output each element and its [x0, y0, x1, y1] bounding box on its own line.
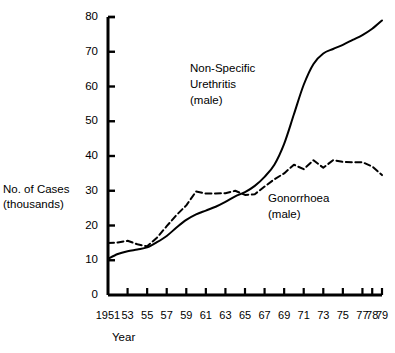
series-line-non-specific-urethritis	[108, 20, 382, 258]
y-axis-tick-label: 80	[72, 10, 98, 23]
series-label-gonorrhoea: Gonorrhoea(male)	[268, 190, 329, 222]
nsu-label-line3: (male)	[190, 94, 223, 106]
y-axis-tick-label: 50	[72, 114, 98, 127]
chart-container: 01020304050607080 1951535557596163656769…	[0, 0, 395, 353]
y-axis-tick-label: 40	[72, 149, 98, 162]
nsu-label-line1: Non-Specific	[190, 62, 255, 74]
chart-plot-area	[0, 0, 395, 353]
y-axis-tick-label: 70	[72, 45, 98, 58]
x-axis-tick-label: 79	[367, 309, 395, 322]
y-axis-tick-label: 30	[72, 184, 98, 197]
chart-axes	[108, 17, 382, 295]
y-axis-label-line1: No. of Cases	[3, 183, 69, 195]
gonorrhoea-label-line2: (male)	[268, 208, 301, 220]
y-axis-tick-label: 10	[72, 253, 98, 266]
y-axis-tick-label: 0	[72, 288, 98, 301]
gonorrhoea-label-line1: Gonorrhoea	[268, 192, 329, 204]
y-axis-label: No. of Cases(thousands)	[3, 182, 69, 212]
nsu-label-line2: Urethritis	[190, 78, 236, 90]
y-axis-tick-label: 60	[72, 80, 98, 93]
y-axis-label-line2: (thousands)	[3, 198, 64, 210]
chart-series	[108, 20, 382, 258]
y-axis-tick-label: 20	[72, 219, 98, 232]
series-label-non-specific-urethritis: Non-SpecificUrethritis(male)	[190, 60, 255, 108]
x-axis-label: Year	[112, 331, 135, 344]
series-line-gonorrhoea	[108, 160, 382, 246]
